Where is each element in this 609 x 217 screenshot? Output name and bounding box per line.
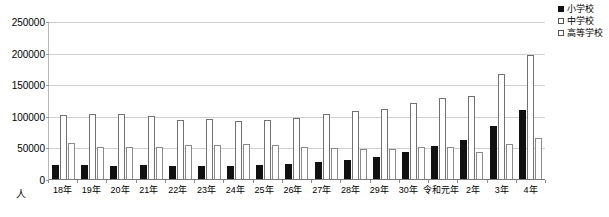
bar xyxy=(402,152,409,180)
bar xyxy=(373,157,380,180)
x-axis-tick-mark xyxy=(545,180,546,183)
bar xyxy=(52,165,59,180)
bar-group xyxy=(166,22,195,180)
bar-group xyxy=(137,22,166,180)
bar-group xyxy=(457,22,486,180)
bar xyxy=(97,147,104,180)
bar xyxy=(535,138,542,180)
x-axis-tick-label: 21年 xyxy=(134,183,163,199)
x-axis-tick-label: 18年 xyxy=(48,183,77,199)
y-axis-tick-label: 0 xyxy=(39,175,45,186)
legend-item-0: 小学校 xyxy=(558,4,603,14)
filled-square-icon xyxy=(558,6,564,12)
bar xyxy=(214,145,221,180)
bar xyxy=(506,144,513,180)
y-axis-tick-label: 100000 xyxy=(12,111,45,122)
bar xyxy=(344,160,351,180)
bar-group xyxy=(312,22,341,180)
bar xyxy=(301,147,308,180)
bar xyxy=(81,165,88,180)
y-axis-tick-label: 200000 xyxy=(12,48,45,59)
bar-group xyxy=(195,22,224,180)
bar xyxy=(68,143,75,180)
bar xyxy=(476,152,483,180)
bar xyxy=(227,166,234,180)
bar-group xyxy=(516,22,545,180)
y-axis-tick-label: 150000 xyxy=(12,80,45,91)
bar xyxy=(360,149,367,180)
legend-label-1: 中学校 xyxy=(567,16,594,26)
x-axis-tick-label: 20年 xyxy=(106,183,135,199)
bar xyxy=(110,166,117,180)
x-axis-tick-label: 23年 xyxy=(192,183,221,199)
bar xyxy=(148,116,155,180)
bar xyxy=(60,115,67,180)
y-axis-unit-label: 人 xyxy=(16,186,26,201)
bar xyxy=(89,114,96,180)
plot-area: 050000100000150000200000250000 xyxy=(48,22,545,180)
bar-group xyxy=(224,22,253,180)
bar xyxy=(272,145,279,180)
x-axis-tick-label: 25年 xyxy=(250,183,279,199)
bar xyxy=(410,103,417,180)
x-axis-tick-label: 22年 xyxy=(163,183,192,199)
x-axis-tick-label: 3年 xyxy=(487,183,516,199)
bar xyxy=(198,166,205,180)
bar-group xyxy=(487,22,516,180)
x-axis-tick-label: 24年 xyxy=(221,183,250,199)
bar-group xyxy=(253,22,282,180)
bar xyxy=(352,111,359,180)
open-square-icon xyxy=(558,18,564,24)
bar xyxy=(285,164,292,180)
bar xyxy=(527,55,534,180)
bar xyxy=(206,119,213,180)
x-axis-tick-label: 19年 xyxy=(77,183,106,199)
bar xyxy=(498,74,505,180)
legend-item-1: 中学校 xyxy=(558,16,603,26)
bar xyxy=(460,140,467,180)
bar xyxy=(169,166,176,180)
bar xyxy=(293,118,300,180)
bar xyxy=(519,110,526,180)
bar xyxy=(118,114,125,180)
bar xyxy=(418,147,425,180)
bar-group xyxy=(370,22,399,180)
bar xyxy=(468,96,475,180)
bar-group xyxy=(399,22,428,180)
x-axis-labels: 18年19年20年21年22年23年24年25年26年27年28年29年30年令… xyxy=(48,183,545,199)
bar xyxy=(331,148,338,180)
legend-label-0: 小学校 xyxy=(567,4,594,14)
bar xyxy=(389,149,396,180)
bar xyxy=(126,147,133,180)
bar-group xyxy=(49,22,78,180)
bar-group xyxy=(282,22,311,180)
x-axis-tick-label: 令和元年 xyxy=(423,183,459,199)
bar-group xyxy=(428,22,457,180)
bar xyxy=(315,162,322,180)
bar-groups xyxy=(49,22,545,180)
x-axis-tick-label: 2年 xyxy=(459,183,488,199)
bar xyxy=(243,144,250,180)
bar xyxy=(140,165,147,180)
legend-label-2: 高等学校 xyxy=(567,28,603,38)
x-axis-tick-label: 29年 xyxy=(365,183,394,199)
bar xyxy=(156,147,163,180)
bar-group xyxy=(78,22,107,180)
bar-chart: 小学校 中学校 高等学校 050000100000150000200000250… xyxy=(0,0,609,217)
chart-legend: 小学校 中学校 高等学校 xyxy=(558,4,603,38)
legend-item-2: 高等学校 xyxy=(558,28,603,38)
x-axis-tick-label: 4年 xyxy=(516,183,545,199)
bar xyxy=(177,120,184,180)
bar xyxy=(381,109,388,180)
y-axis-tick-label: 50000 xyxy=(17,143,45,154)
bar xyxy=(323,114,330,180)
bar-group xyxy=(107,22,136,180)
bar xyxy=(439,98,446,180)
bar xyxy=(185,145,192,180)
bar xyxy=(256,165,263,180)
x-axis-tick-label: 28年 xyxy=(336,183,365,199)
x-axis-tick-label: 27年 xyxy=(307,183,336,199)
bar xyxy=(490,126,497,180)
x-axis-tick-label: 26年 xyxy=(279,183,308,199)
bar xyxy=(235,121,242,180)
